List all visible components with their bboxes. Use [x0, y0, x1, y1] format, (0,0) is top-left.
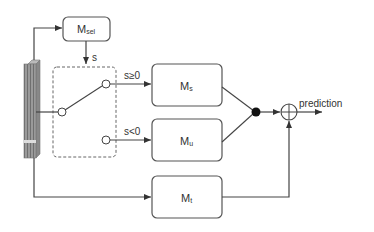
pos-branch-label: s≥0: [124, 70, 140, 81]
switch-lever: [65, 86, 102, 110]
input-to-mt-arrow: [34, 158, 151, 197]
junction-dot: [252, 108, 261, 117]
switch-neg-node: [102, 136, 110, 144]
neg-branch-label: s<0: [124, 126, 141, 137]
switch-pos-node: [102, 80, 110, 88]
mu-to-junction-line: [222, 113, 254, 142]
sum-node-icon: [281, 104, 297, 120]
input-feature-bar: [24, 60, 40, 158]
diagram-canvas: Msel s s≥0 s<0 Ms Mu Mt prediction: [0, 0, 374, 232]
output-label: prediction: [299, 98, 342, 109]
signal-label: s: [92, 52, 97, 63]
switch-input-node: [58, 108, 66, 116]
ms-to-junction-line: [222, 87, 254, 111]
input-to-msel-arrow: [34, 28, 62, 60]
